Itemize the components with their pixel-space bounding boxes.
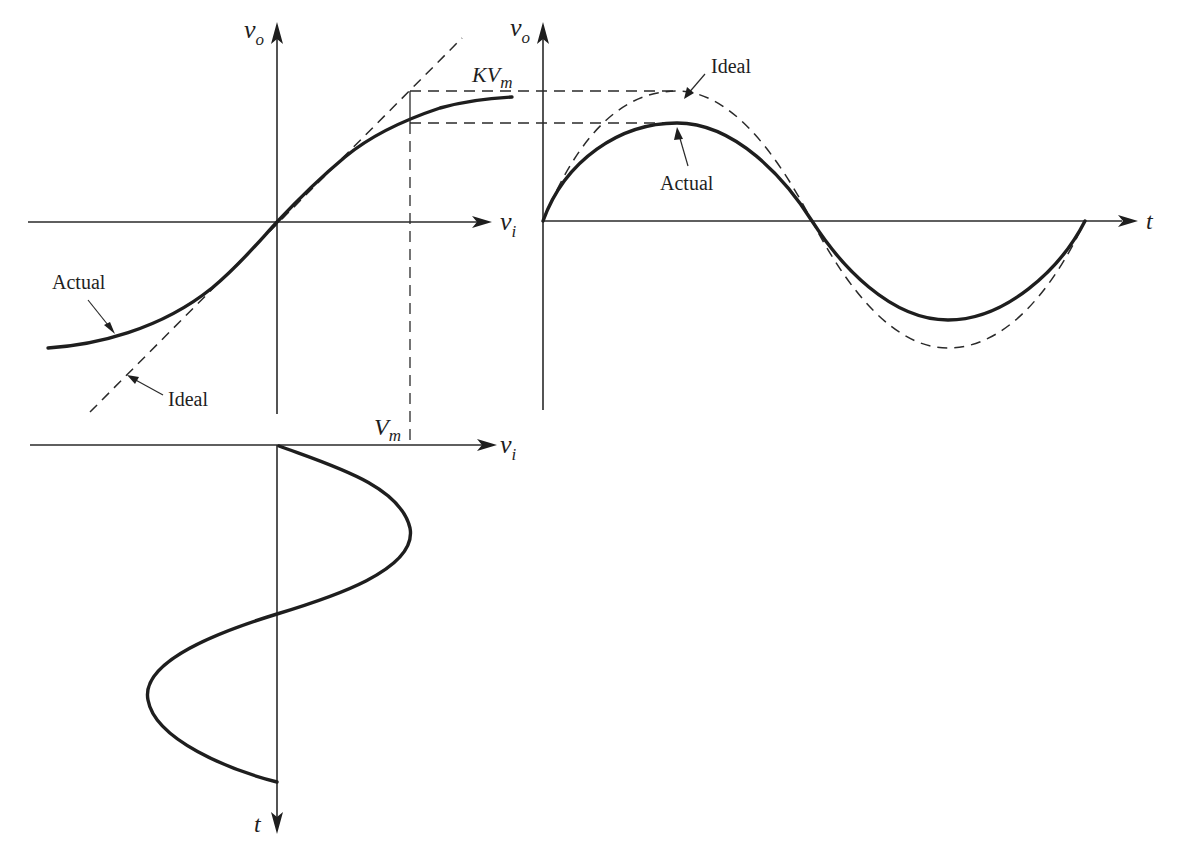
actual-pointer-right-arrow-icon bbox=[674, 127, 683, 140]
ideal-label-left: Ideal bbox=[168, 388, 208, 410]
actual-label-right: Actual bbox=[660, 172, 714, 194]
actual-pointer-arrow-icon bbox=[104, 322, 115, 334]
actual-pointer-right bbox=[679, 135, 688, 166]
ideal-output-waveform bbox=[543, 91, 1085, 348]
actual-label-left: Actual bbox=[52, 271, 106, 293]
output-waveform-plot: vo t Ideal Actual bbox=[510, 13, 1154, 410]
vi-axis-label-top: vi bbox=[500, 207, 517, 241]
vm-label: Vm bbox=[374, 414, 401, 445]
t-axis-label-right: t bbox=[1146, 208, 1154, 234]
input-waveform bbox=[147, 446, 410, 782]
t-axis-label-bottom: t bbox=[254, 811, 262, 837]
vo-axis-label-right: vo bbox=[510, 13, 530, 47]
vi-axis-label-bottom: vi bbox=[500, 430, 517, 464]
vo-axis-label-left: vo bbox=[244, 15, 264, 49]
ideal-pointer-arrow-icon bbox=[127, 375, 139, 384]
ideal-label-right: Ideal bbox=[711, 55, 751, 77]
kvm-label: KVm bbox=[471, 62, 512, 92]
distortion-diagram: vo vi KVm Actual Ideal vo t Ideal Actual bbox=[0, 0, 1179, 862]
input-waveform-plot: Vm vi t bbox=[30, 414, 517, 837]
transfer-characteristic-plot: vo vi KVm Actual Ideal bbox=[28, 15, 680, 445]
